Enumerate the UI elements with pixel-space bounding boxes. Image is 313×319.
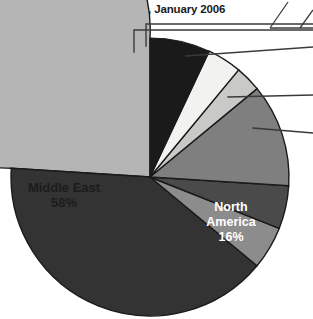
pie-slice-middle-east[interactable]	[0, 0, 150, 177]
pie-slices	[0, 0, 289, 316]
callout-box-edge-3	[300, 10, 313, 28]
pie-chart-canvas	[0, 0, 313, 319]
pie-chart-figure: World Crude Oil Reserves, January 2006	[0, 0, 313, 319]
